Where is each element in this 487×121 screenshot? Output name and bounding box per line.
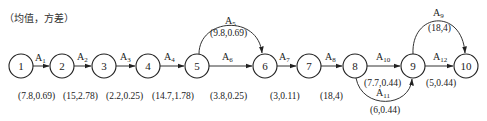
node-4: 4	[136, 54, 160, 78]
node-8: 8	[343, 54, 367, 78]
node-4-label: 4	[145, 60, 151, 72]
edge-a9: A9 (18,4)	[413, 7, 465, 54]
edge-a9-param: (18,4)	[428, 23, 451, 34]
node-2: 2	[50, 54, 74, 78]
edge-a7-param: (3,0.11)	[270, 91, 300, 102]
svg-text:A9: A9	[433, 7, 444, 20]
edge-a5: A5 (9.8,0.69)	[199, 15, 262, 54]
edge-a6-param: (3.8,0.25)	[210, 91, 247, 102]
node-3-label: 3	[101, 60, 107, 72]
edge-a12-sub: 12	[440, 56, 448, 64]
edge-a1-param: (7.8,0.69)	[18, 91, 55, 102]
node-1: 1	[9, 54, 33, 78]
svg-text:A12: A12	[433, 51, 448, 64]
edge-a8: A8 (18,4)	[320, 51, 343, 102]
node-8-label: 8	[352, 60, 358, 72]
edge-a12: A12 (5,0.44)	[425, 51, 456, 89]
node-9-label: 9	[410, 60, 416, 72]
node-7-label: 7	[306, 60, 312, 72]
svg-text:A1: A1	[35, 52, 46, 65]
svg-text:A4: A4	[164, 51, 175, 64]
node-5-label: 5	[194, 60, 200, 72]
svg-text:A7: A7	[279, 51, 290, 64]
edge-a8-param: (18,4)	[320, 91, 343, 102]
node-7: 7	[297, 54, 321, 78]
node-6-label: 6	[262, 60, 268, 72]
svg-text:A10: A10	[376, 51, 391, 64]
svg-text:A6: A6	[222, 51, 233, 64]
edge-a3-sub: 3	[127, 56, 131, 64]
project-network-diagram: A1 (7.8,0.69) A2 (15,2.78) A3 (2.2,0.25)…	[0, 0, 487, 121]
edge-a12-param: (5,0.44)	[426, 78, 456, 89]
edge-a11-param: (6,0.44)	[370, 105, 400, 116]
edge-a4-sub: 4	[171, 56, 175, 64]
edge-a6: A6 (3.8,0.25)	[209, 51, 252, 102]
node-2-label: 2	[59, 60, 65, 72]
edge-a5-sub: 5	[232, 20, 236, 28]
svg-text:A5: A5	[225, 15, 236, 28]
node-5: 5	[185, 54, 209, 78]
edge-a7-sub: 7	[286, 56, 290, 64]
svg-text:A2: A2	[77, 51, 88, 64]
edge-a4-param: (14.7,1.78)	[152, 91, 194, 102]
edge-a8-sub: 8	[332, 56, 336, 64]
node-10: 10	[454, 54, 478, 78]
edge-a1-sub: 1	[42, 57, 46, 65]
edge-a10: A10 (7.7,0.44)	[364, 51, 401, 89]
edge-a9-sub: 9	[440, 12, 444, 20]
node-3: 3	[92, 54, 116, 78]
node-6: 6	[253, 54, 277, 78]
node-1-label: 1	[18, 60, 24, 72]
edge-a11-sub: 11	[383, 92, 390, 100]
edge-a2-param: (15,2.78)	[63, 91, 98, 102]
svg-text:A11: A11	[376, 87, 390, 100]
edge-a5-param: (9.8,0.69)	[210, 28, 247, 39]
node-10-label: 10	[461, 60, 473, 72]
svg-text:A3: A3	[120, 51, 131, 64]
node-9: 9	[401, 54, 425, 78]
edge-a6-sub: 6	[229, 56, 233, 64]
edge-a10-sub: 10	[383, 56, 391, 64]
edge-a3-param: (2.2,0.25)	[106, 91, 143, 102]
edge-a2-sub: 2	[84, 56, 88, 64]
svg-text:A8: A8	[325, 51, 336, 64]
